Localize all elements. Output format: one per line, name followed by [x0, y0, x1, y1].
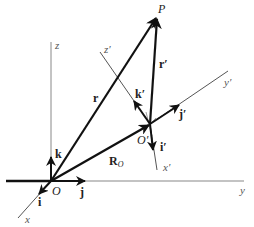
k-label: k	[55, 147, 62, 161]
x-axis-label: x	[24, 213, 30, 225]
y-prime-axis-label: y′	[223, 76, 232, 88]
j-prime-vector	[150, 105, 179, 124]
point-O-prime-label: O′	[137, 133, 149, 147]
R-o-vector	[51, 125, 149, 181]
i-label: i	[38, 195, 42, 209]
y-axis-label: y	[239, 184, 245, 196]
point-O-label: O	[52, 184, 61, 198]
r-prime-vector	[150, 19, 157, 124]
rotating-frame-diagram: P O O′ z y x z′ y′ x′ i j k i′ j′ k′ r r…	[0, 0, 254, 227]
j-prime-label: j′	[178, 107, 186, 121]
i-prime-label: i′	[160, 140, 167, 154]
r-label: r	[93, 91, 99, 105]
point-P-label: P	[157, 2, 166, 16]
r-prime-label: r′	[159, 57, 168, 71]
i-vector	[39, 181, 51, 194]
z-prime-axis-label: z′	[103, 43, 111, 55]
i-prime-vector	[150, 124, 153, 150]
R-o-label: RO	[109, 154, 124, 169]
x-prime-axis-label: x′	[162, 161, 171, 173]
k-prime-vector	[134, 101, 150, 124]
R-o-main: R	[109, 154, 118, 168]
j-label: j	[79, 185, 84, 199]
k-prime-label: k′	[135, 87, 145, 101]
z-axis-label: z	[54, 39, 60, 51]
R-o-subscript: O	[118, 160, 124, 169]
